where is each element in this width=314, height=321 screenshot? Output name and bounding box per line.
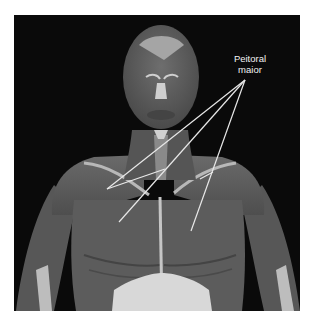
anatomy-figure: Peitoral maior xyxy=(14,15,300,311)
muscle-label: Peitoral maior xyxy=(232,54,268,75)
head xyxy=(123,25,199,139)
label-line-2: maior xyxy=(232,65,268,76)
label-line-1: Peitoral xyxy=(232,54,268,65)
